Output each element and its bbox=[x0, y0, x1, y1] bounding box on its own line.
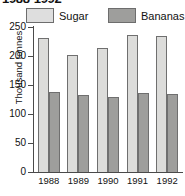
bar-bananas-1989 bbox=[78, 95, 89, 172]
bar-group bbox=[34, 27, 64, 172]
bar-chart: 1988-1992 Sugar Bananas Thousand tonnes … bbox=[0, 0, 185, 196]
bar-sugar-1988 bbox=[38, 38, 49, 172]
bar-sugar-1990 bbox=[97, 48, 108, 172]
bar-sugar-1989 bbox=[67, 55, 78, 172]
chart-legend: Sugar Bananas bbox=[26, 8, 184, 26]
x-axis-label-1991: 1991 bbox=[123, 175, 153, 186]
y-axis-tick-label: 50 bbox=[0, 138, 26, 148]
y-axis-tick bbox=[28, 172, 33, 173]
bar-bananas-1992 bbox=[167, 94, 178, 172]
legend-label-sugar: Sugar bbox=[59, 10, 88, 22]
legend-item-bananas: Bananas bbox=[108, 8, 184, 23]
bar-sugar-1992 bbox=[156, 36, 167, 172]
y-axis-label: Thousand tonnes bbox=[13, 18, 24, 118]
bar-group bbox=[123, 27, 153, 172]
y-axis-tick bbox=[28, 143, 33, 144]
legend-swatch-bananas bbox=[108, 8, 136, 23]
chart-title: 1988-1992 bbox=[2, 0, 61, 6]
bar-group bbox=[93, 27, 123, 172]
x-axis-label-1990: 1990 bbox=[93, 175, 123, 186]
bar-group bbox=[64, 27, 94, 172]
bar-group bbox=[152, 27, 182, 172]
bar-sugar-1991 bbox=[127, 35, 138, 172]
bars-area bbox=[34, 27, 182, 172]
x-axis-label-1988: 1988 bbox=[34, 175, 64, 186]
x-axis-labels: 19881989199019911992 bbox=[34, 175, 182, 186]
y-axis-tick bbox=[28, 114, 33, 115]
bar-bananas-1990 bbox=[108, 97, 119, 172]
y-axis-tick-label: 150 bbox=[0, 80, 26, 90]
y-axis-tick-label: 200 bbox=[0, 51, 26, 61]
y-axis-tick bbox=[28, 85, 33, 86]
y-axis-tick bbox=[28, 27, 33, 28]
x-axis-line bbox=[33, 172, 183, 173]
bar-bananas-1991 bbox=[138, 93, 149, 172]
bar-bananas-1988 bbox=[49, 92, 60, 172]
x-axis-label-1989: 1989 bbox=[64, 175, 94, 186]
y-axis-tick-label: 0 bbox=[0, 167, 26, 177]
y-axis-tick-label: 250 bbox=[0, 22, 26, 32]
legend-swatch-sugar bbox=[26, 8, 54, 23]
legend-label-bananas: Bananas bbox=[141, 10, 184, 22]
legend-item-sugar: Sugar bbox=[26, 8, 88, 23]
y-axis-tick-label: 100 bbox=[0, 109, 26, 119]
y-axis-tick bbox=[28, 56, 33, 57]
x-axis-label-1992: 1992 bbox=[152, 175, 182, 186]
